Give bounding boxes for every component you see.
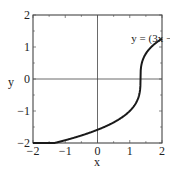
x-tick-label: −1 xyxy=(59,144,72,158)
y-tick-label: 0 xyxy=(24,72,30,86)
tick-labels: −2−1012−2−1012 xyxy=(17,8,165,158)
y-tick-label: −2 xyxy=(17,136,30,150)
curve-annotation: y = (3x − 4)1/3 xyxy=(131,31,170,45)
x-tick-label: 1 xyxy=(127,144,133,158)
x-tick-label: 2 xyxy=(159,144,165,158)
x-axis-label: x xyxy=(94,155,100,169)
y-tick-label: 1 xyxy=(24,40,30,54)
chart: −2−1012−2−1012 y = (3x − 4)1/3 x y xyxy=(0,0,170,172)
y-axis-label: y xyxy=(8,75,14,89)
y-tick-label: 2 xyxy=(24,8,30,22)
y-tick-label: −1 xyxy=(17,104,30,118)
